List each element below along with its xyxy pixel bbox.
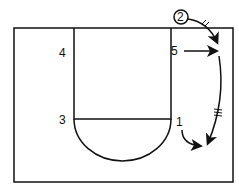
court-diagram	[0, 0, 239, 188]
player-5: 5	[171, 45, 178, 57]
dribble-path-corner	[208, 56, 221, 143]
player-4: 4	[59, 47, 66, 59]
player-3: 3	[59, 114, 66, 126]
player-2: 2	[177, 11, 184, 23]
player-1: 1	[176, 116, 183, 128]
cut-path-1	[182, 130, 200, 146]
lane	[74, 28, 171, 119]
free-throw-circle	[74, 119, 171, 161]
dribble-path-2	[188, 19, 217, 42]
